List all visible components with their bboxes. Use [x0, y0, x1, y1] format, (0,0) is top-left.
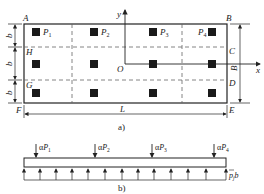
- column-square: [90, 28, 98, 36]
- beam-view: αP1 αP2 αP3 αP4 pjb b): [24, 143, 239, 193]
- label-p3: P3: [159, 27, 169, 38]
- label-d: D: [228, 78, 236, 88]
- label-pressure: pjb: [228, 171, 239, 181]
- label-origin: O: [117, 64, 124, 74]
- plan-view: A B E F H G C D O y x P1 P2 P3 P4 b b b: [4, 9, 260, 132]
- column-square: [208, 60, 216, 68]
- label-y-axis: y: [116, 9, 121, 19]
- load-arrows: [36, 144, 214, 157]
- column-square: [208, 28, 216, 36]
- label-p2: P2: [100, 27, 110, 38]
- label-b-strip-1: b: [4, 33, 14, 38]
- column-square: [32, 89, 40, 97]
- label-h: H: [25, 47, 33, 57]
- label-alpha-p4: αP4: [217, 143, 229, 153]
- label-length-L: L: [119, 104, 125, 114]
- foundation-diagram: A B E F H G C D O y x P1 P2 P3 P4 b b b: [0, 0, 264, 194]
- label-p4: P4: [197, 27, 207, 38]
- columns: [32, 28, 216, 97]
- label-b: B: [226, 13, 232, 23]
- column-square: [32, 60, 40, 68]
- label-b-strip-3: b: [4, 90, 14, 95]
- caption-a: a): [118, 122, 125, 132]
- beam: [24, 158, 226, 167]
- label-a: A: [22, 13, 29, 23]
- column-square: [208, 89, 216, 97]
- dimension-width-B: [230, 24, 250, 103]
- label-c: C: [229, 46, 236, 56]
- column-square: [149, 28, 157, 36]
- foundation-outline: [24, 24, 227, 103]
- label-p1: P1: [42, 27, 52, 38]
- column-square: [90, 89, 98, 97]
- label-b-strip-2: b: [4, 61, 14, 66]
- label-width-B: B: [229, 65, 239, 71]
- label-alpha-p1: αP1: [39, 143, 51, 153]
- pressure-arrows: [24, 169, 226, 180]
- label-e: E: [228, 105, 235, 115]
- caption-b: b): [118, 183, 126, 193]
- label-alpha-p3: αP3: [155, 143, 167, 153]
- label-alpha-p2: αP2: [98, 143, 110, 153]
- column-square: [149, 60, 157, 68]
- column-square: [32, 28, 40, 36]
- label-f: F: [15, 105, 22, 115]
- column-square: [149, 89, 157, 97]
- label-g: G: [26, 80, 33, 90]
- label-x-axis: x: [255, 65, 260, 75]
- column-square: [90, 60, 98, 68]
- dimension-length-L: [24, 105, 227, 118]
